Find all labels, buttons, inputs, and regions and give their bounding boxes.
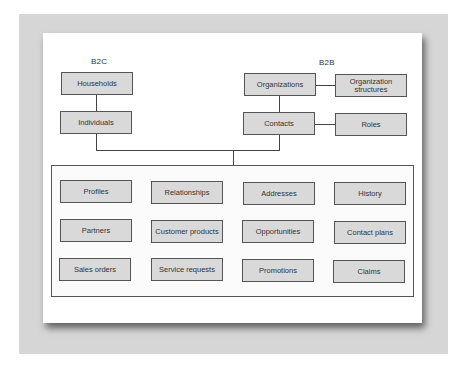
edge-horizontal-join [96,150,280,151]
node-households: Households [61,72,133,95]
node-partners: Partners [60,219,132,242]
node-individuals: Individuals [60,111,132,134]
edge-individuals-down [96,134,97,150]
node-addresses: Addresses [243,182,315,205]
node-history: History [334,182,406,205]
edge-organizations-contacts [279,96,280,112]
edge-contacts-down [279,135,280,150]
edge-to-container [233,150,234,165]
node-sales-orders: Sales orders [59,258,131,281]
node-customer-products: Customer products [151,220,223,243]
node-claims: Claims [333,260,405,283]
edge-organizations-structures [315,85,335,86]
node-organizations: Organizations [244,73,316,96]
node-relationships: Relationships [151,181,223,204]
edge-contacts-roles [315,124,335,125]
b2c-label: B2C [91,57,107,66]
node-promotions: Promotions [242,259,314,282]
node-organization-structures: Organization structures [335,74,407,97]
node-profiles: Profiles [60,180,132,203]
node-contact-plans: Contact plans [334,221,406,244]
node-roles: Roles [335,113,407,136]
b2b-label: B2B [319,58,335,67]
node-service-requests: Service requests [151,258,223,281]
node-opportunities: Opportunities [242,220,314,243]
edge-households-individuals [96,95,97,111]
node-contacts: Contacts [243,112,315,135]
